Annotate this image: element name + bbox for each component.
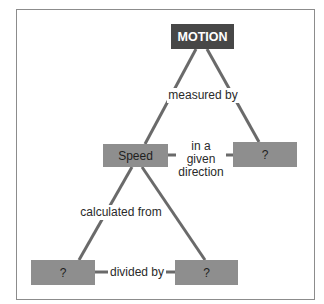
node-distance-unknown: ? xyxy=(31,260,95,285)
node-motion: MOTION xyxy=(171,24,234,49)
node-velocity-unknown: ? xyxy=(233,142,297,167)
node-time-unknown: ? xyxy=(175,260,238,285)
link-label-in-a-given-direction: in a given direction xyxy=(176,140,226,179)
link-label-measured-by: measured by xyxy=(167,88,239,103)
node-speed: Speed xyxy=(103,144,168,167)
link-label-line-3: direction xyxy=(176,166,226,179)
link-label-calculated-from: calculated from xyxy=(76,205,166,220)
link-label-divided-by: divided by xyxy=(108,265,166,280)
